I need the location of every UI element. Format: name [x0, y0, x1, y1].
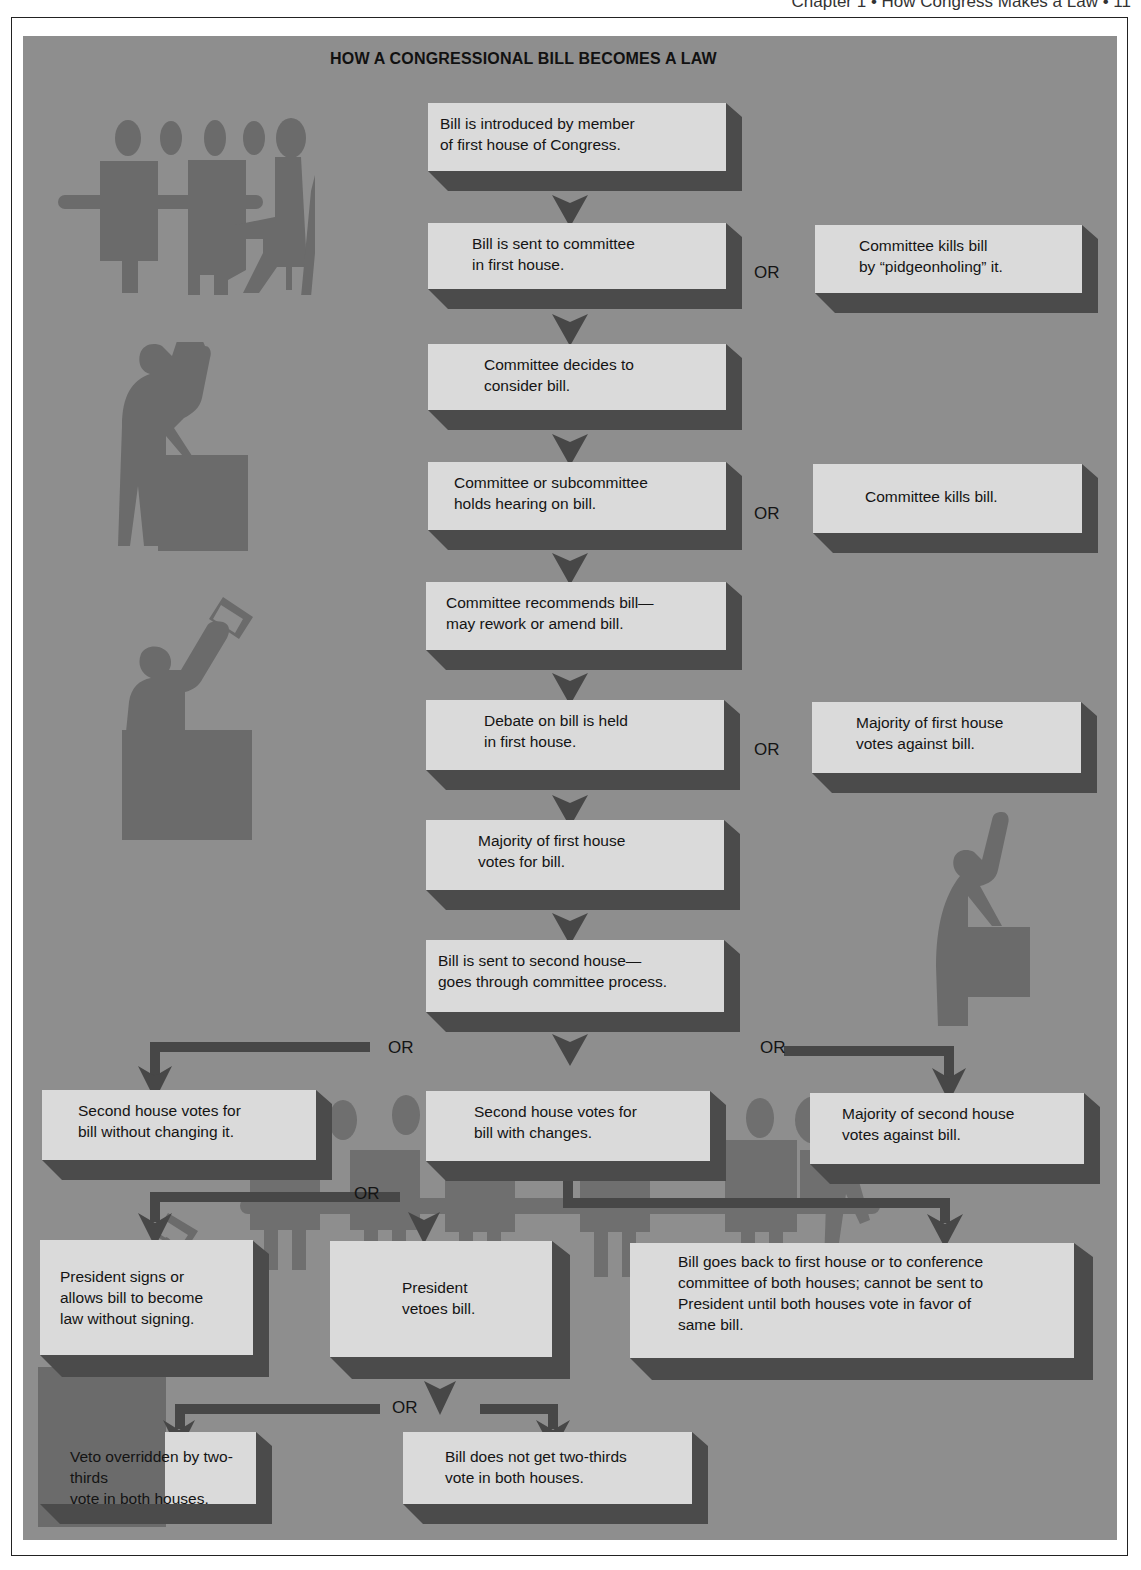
- step-text: Debate on bill is held in first house.: [484, 710, 712, 752]
- veto-box: Veto overridden by two-thirds vote in bo…: [40, 1432, 272, 1524]
- step-text: Bill is sent to committee in first house…: [472, 233, 714, 275]
- president-box: Bill goes back to first house or to conf…: [630, 1243, 1093, 1380]
- speaker-at-podium-icon: [110, 342, 260, 557]
- president-text: Bill goes back to first house or to conf…: [678, 1251, 1062, 1335]
- veto-text: Bill does not get two-thirds vote in bot…: [445, 1446, 680, 1488]
- or-label: OR: [354, 1184, 380, 1204]
- alternative-box: Majority of first house votes against bi…: [812, 702, 1097, 793]
- president-text: President vetoes bill.: [402, 1277, 540, 1319]
- step-box: Bill is introduced by member of first ho…: [428, 103, 742, 191]
- or-label: OR: [754, 504, 780, 524]
- diagram-title: HOW A CONGRESSIONAL BILL BECOMES A LAW: [330, 50, 717, 68]
- second-house-box: Majority of second house votes against b…: [810, 1093, 1100, 1184]
- alternative-text: Committee kills bill by “pidgeonholing” …: [859, 235, 1070, 277]
- running-head: Chapter 1 • How Congress Makes a Law • 1…: [792, 0, 1131, 12]
- or-label: OR: [754, 263, 780, 283]
- second-house-text: Majority of second house votes against b…: [842, 1103, 1072, 1145]
- step-box: Committee recommends bill— may rework or…: [426, 582, 742, 670]
- alternative-box: Committee kills bill.: [813, 464, 1098, 553]
- step-text: Bill is introduced by member of first ho…: [440, 113, 714, 155]
- committee-meeting-icon: [55, 115, 315, 295]
- second-house-text: Second house votes for bill without chan…: [78, 1100, 304, 1142]
- or-label: OR: [392, 1398, 418, 1418]
- president-text: President signs or allows bill to become…: [60, 1266, 241, 1329]
- second-house-text: Second house votes for bill with changes…: [474, 1101, 698, 1143]
- second-house-box: Second house votes for bill without chan…: [42, 1090, 332, 1180]
- speaker-pointing-icon: [905, 812, 1035, 1032]
- veto-box: Bill does not get two-thirds vote in bot…: [403, 1432, 708, 1524]
- or-label: OR: [754, 740, 780, 760]
- step-box: Bill is sent to second house— goes throu…: [426, 940, 740, 1032]
- step-text: Committee or subcommittee holds hearing …: [454, 472, 714, 514]
- veto-text: Veto overridden by two-thirds vote in bo…: [70, 1446, 244, 1509]
- step-text: Majority of first house votes for bill.: [478, 830, 712, 872]
- step-box: Committee decides to consider bill.: [428, 344, 742, 430]
- step-text: Bill is sent to second house— goes throu…: [438, 950, 712, 992]
- step-box: Bill is sent to committee in first house…: [428, 223, 742, 309]
- second-house-box: Second house votes for bill with changes…: [426, 1091, 726, 1181]
- alternative-text: Majority of first house votes against bi…: [856, 712, 1069, 754]
- step-text: Committee recommends bill— may rework or…: [446, 592, 714, 634]
- president-box: President vetoes bill.: [330, 1241, 570, 1379]
- alternative-box: Committee kills bill by “pidgeonholing” …: [815, 225, 1098, 313]
- step-box: Committee or subcommittee holds hearing …: [428, 462, 742, 550]
- step-text: Committee decides to consider bill.: [484, 354, 714, 396]
- voter-with-ballot-icon: [95, 592, 275, 862]
- step-box: Majority of first house votes for bill.: [426, 820, 740, 910]
- step-box: Debate on bill is held in first house.: [426, 700, 740, 790]
- or-label: OR: [388, 1038, 414, 1058]
- alternative-text: Committee kills bill.: [865, 486, 1070, 507]
- or-label: OR: [760, 1038, 786, 1058]
- president-box: President signs or allows bill to become…: [40, 1240, 269, 1377]
